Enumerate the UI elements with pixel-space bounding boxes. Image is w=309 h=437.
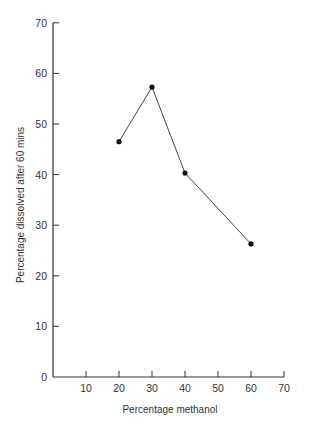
axes	[53, 23, 284, 377]
y-tick-label: 40	[35, 169, 47, 181]
series-line	[119, 87, 251, 244]
data-point-marker	[116, 139, 121, 144]
data-series	[116, 84, 253, 246]
y-tick-label: 70	[35, 17, 47, 29]
x-tick-label: 20	[113, 382, 125, 394]
y-tick-label: 10	[35, 320, 47, 332]
y-tick-label: 50	[35, 118, 47, 130]
y-tick-label: 20	[35, 270, 47, 282]
data-point-marker	[248, 241, 253, 246]
x-tick-label: 70	[278, 382, 290, 394]
y-tick-label: 0	[41, 371, 47, 383]
y-tick-label: 30	[35, 219, 47, 231]
x-tick-label: 30	[146, 382, 158, 394]
x-tick-label: 60	[245, 382, 257, 394]
y-axis-ticks: 010203040506070	[35, 17, 59, 383]
data-point-marker	[182, 170, 187, 175]
x-tick-label: 10	[80, 382, 92, 394]
x-tick-label: 40	[179, 382, 191, 394]
x-axis-ticks: 10203040506070	[80, 371, 290, 394]
y-tick-label: 60	[35, 67, 47, 79]
y-axis-label: Percentage dissolved after 60 mins	[15, 127, 26, 283]
data-point-marker	[149, 84, 154, 89]
x-tick-label: 50	[212, 382, 224, 394]
x-axis-label: Percentage methanol	[122, 404, 217, 415]
line-chart: 010203040506070 10203040506070 Percentag…	[0, 0, 309, 437]
